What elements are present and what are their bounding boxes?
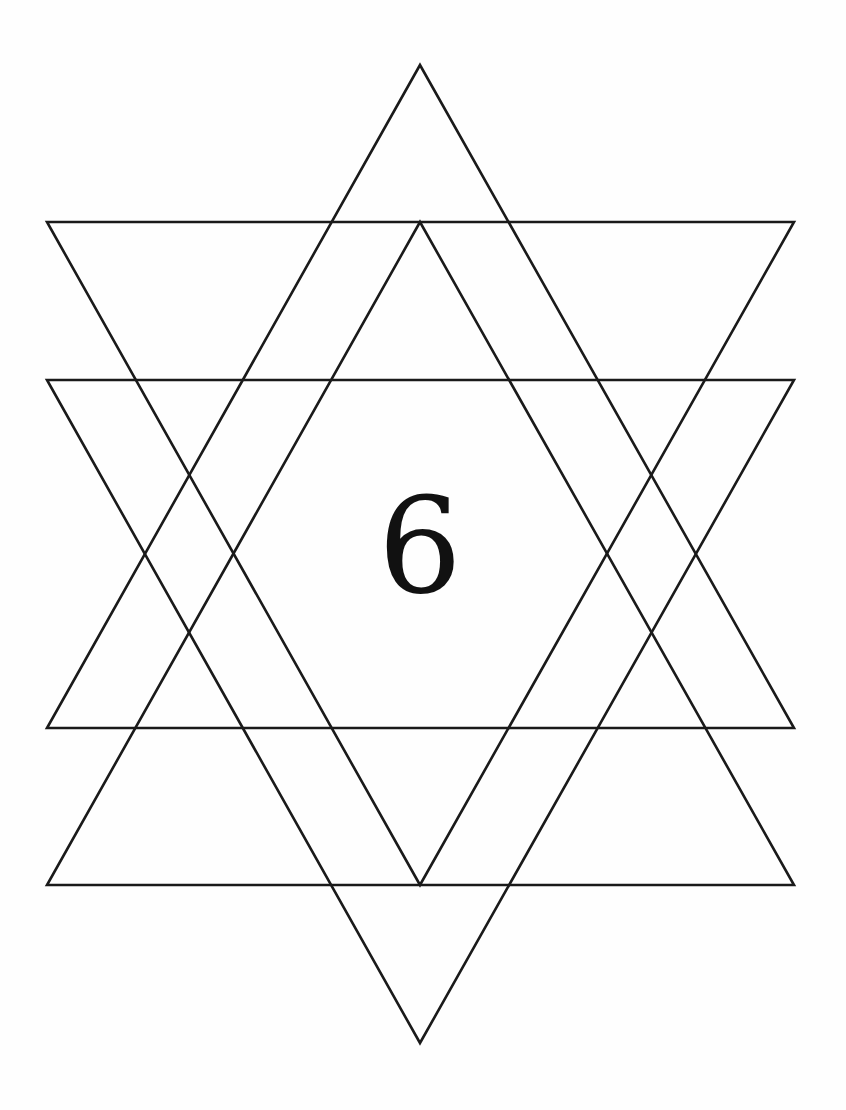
- triangle-up-large: [47, 65, 794, 728]
- center-number-label: 6: [0, 480, 840, 612]
